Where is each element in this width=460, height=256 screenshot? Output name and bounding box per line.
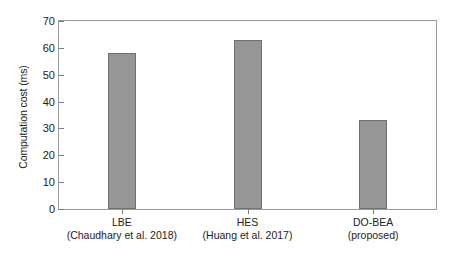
bars-container — [59, 21, 436, 209]
y-tick-label: 0 — [49, 201, 55, 217]
y-tick-mark — [59, 75, 64, 76]
x-tick-mark — [122, 209, 123, 214]
y-tick-label: 20 — [43, 147, 55, 163]
y-tick-mark — [59, 128, 64, 129]
y-tick-mark — [59, 48, 64, 49]
y-tick-label: 50 — [43, 67, 55, 83]
y-tick-mark — [59, 155, 64, 156]
y-axis-title: Computation cost (ms) — [14, 22, 32, 212]
bar-lbe — [108, 53, 136, 209]
y-tick-label: 60 — [43, 40, 55, 56]
y-tick-label: 40 — [43, 94, 55, 110]
x-tick-label-name: LBE — [112, 216, 132, 228]
y-tick-label: 30 — [43, 120, 55, 136]
x-tick-label-name: DO-BEA — [353, 216, 393, 228]
y-tick-label: 10 — [43, 174, 55, 190]
y-tick-mark — [59, 182, 64, 183]
y-tick-mark — [59, 102, 64, 103]
bar-hes — [234, 40, 262, 209]
y-tick-mark — [59, 21, 64, 22]
x-tick-label-citation: (proposed) — [293, 229, 453, 242]
x-tick-label-name: HES — [237, 216, 259, 228]
x-tick-label: DO-BEA(proposed) — [293, 216, 453, 242]
bar-do-bea — [359, 120, 387, 209]
x-tick-mark — [248, 209, 249, 214]
y-tick-mark — [59, 209, 64, 210]
plot-area: 010203040506070LBE(Chaudhary et al. 2018… — [58, 20, 437, 210]
bar-chart-figure: Computation cost (ms) 010203040506070LBE… — [0, 0, 460, 256]
x-tick-mark — [373, 209, 374, 214]
y-tick-label: 70 — [43, 13, 55, 29]
